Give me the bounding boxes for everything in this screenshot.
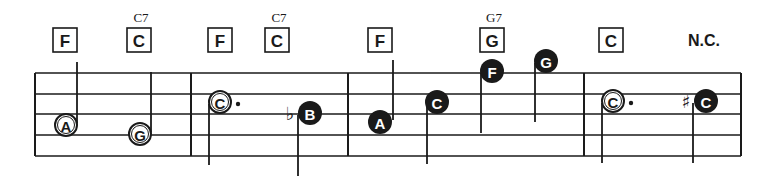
alt-chord-label: C7 [133,10,149,25]
chord-symbols: FCC7FCC7FGG7C [53,10,623,52]
notes: AGCB♭ACFGCC♯ [55,49,718,145]
flat-icon: ♭ [286,103,295,124]
note-g: G [534,49,558,73]
chord-symbol: C [599,28,623,52]
note-name: B [305,106,316,123]
note-name: C [432,95,443,112]
alt-chord-label: C7 [271,10,287,25]
chord-symbol: CC7 [265,10,289,52]
sharp-icon: ♯ [682,91,691,112]
music-score: FCC7FCC7FGG7C N.C. AGCB♭ACFGCC♯ [0,0,777,176]
note-c: C [425,90,449,114]
dot-icon [236,102,240,106]
note-c: C♯ [682,89,718,113]
no-chord-label: N.C. [688,32,720,49]
note-name: C [608,94,619,111]
note-f: F [480,59,504,83]
chord-symbol: F [208,28,232,52]
no-chord-marker: N.C. [688,32,720,49]
chord-label: G [485,32,498,51]
chord-symbol: F [368,28,392,52]
chord-symbol: F [53,28,77,52]
note-name: A [61,118,72,135]
note-name: G [134,127,146,144]
chord-label: C [605,32,617,51]
note-a: A [55,114,77,136]
note-name: G [540,54,552,71]
note-b: B♭ [286,101,322,125]
chord-label: C [271,32,283,51]
note-name: F [487,64,496,81]
note-name: C [701,94,712,111]
note-a: A [368,110,392,134]
chord-label: F [215,32,225,51]
chord-label: F [60,32,70,51]
alt-chord-label: G7 [486,10,502,25]
note-g: G [129,123,151,145]
chord-label: C [133,32,145,51]
chord-label: F [375,32,385,51]
chord-symbol: GG7 [480,10,504,52]
dot-icon [629,101,633,105]
chord-symbol: CC7 [127,10,151,52]
note-name: C [215,95,226,112]
note-name: A [375,115,386,132]
